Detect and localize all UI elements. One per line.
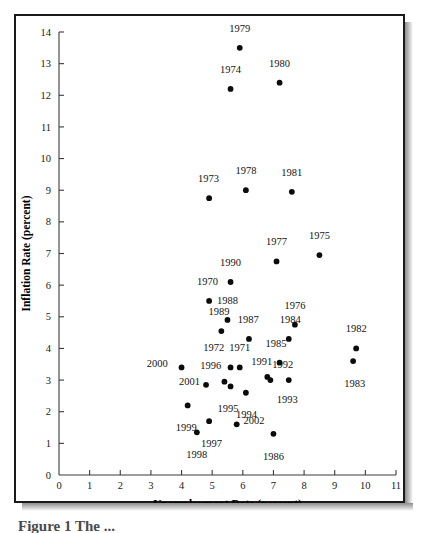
- data-point-1994[interactable]: [243, 390, 249, 396]
- data-point-1972[interactable]: [228, 365, 234, 371]
- data-point-1971[interactable]: [237, 365, 243, 371]
- point-label-1984: 1984: [280, 314, 302, 325]
- plot-svg: 0123456789101101234567891011121314Unempl…: [16, 16, 407, 505]
- point-label-1971: 1971: [229, 342, 250, 353]
- y-tick-label: 12: [41, 90, 52, 101]
- data-point-1973[interactable]: [206, 195, 212, 201]
- data-point-1974[interactable]: [228, 86, 234, 92]
- y-tick-label: 1: [46, 438, 51, 449]
- data-point-2002[interactable]: [234, 421, 240, 427]
- data-point-1999[interactable]: [185, 402, 191, 408]
- point-label-1970: 1970: [197, 276, 218, 287]
- point-label-1985: 1985: [265, 338, 286, 349]
- point-label-1997: 1997: [201, 438, 222, 449]
- y-tick-label: 7: [46, 248, 51, 259]
- data-point-1977[interactable]: [274, 259, 280, 265]
- data-point-2000[interactable]: [179, 365, 185, 371]
- data-point-2001[interactable]: [203, 382, 209, 388]
- data-point-1995[interactable]: [228, 384, 234, 390]
- data-point-1984[interactable]: [286, 336, 292, 342]
- x-tick-label: 7: [271, 480, 276, 491]
- point-label-1978: 1978: [235, 165, 256, 176]
- data-point-1979[interactable]: [237, 45, 243, 51]
- point-label-1980: 1980: [269, 58, 290, 69]
- y-tick-label: 10: [41, 153, 52, 164]
- y-tick-label: 9: [46, 185, 51, 196]
- y-tick-label: 2: [46, 406, 51, 417]
- x-tick-label: 10: [360, 480, 371, 491]
- point-label-1996: 1996: [200, 360, 221, 371]
- data-point-1980[interactable]: [277, 80, 283, 86]
- x-tick-label: 9: [332, 480, 337, 491]
- scatter-plot: 0123456789101101234567891011121314Unempl…: [16, 16, 407, 505]
- data-point-1981[interactable]: [289, 189, 295, 195]
- point-label-1991: 1991: [251, 356, 272, 367]
- figure-caption: Figure 1 The ...: [18, 519, 278, 533]
- y-tick-label: 3: [46, 375, 51, 386]
- x-tick-label: 5: [210, 480, 215, 491]
- point-label-1976: 1976: [284, 300, 305, 311]
- y-tick-label: 8: [46, 216, 51, 227]
- x-tick-label: 2: [118, 480, 123, 491]
- y-tick-label: 6: [46, 280, 51, 291]
- point-label-1992: 1992: [272, 359, 293, 370]
- point-label-1979: 1979: [229, 23, 250, 34]
- y-axis-title: Inflation Rate (percent): [20, 195, 33, 311]
- point-label-1975: 1975: [309, 230, 330, 241]
- point-label-2002: 2002: [243, 415, 264, 426]
- data-point-1993[interactable]: [267, 377, 273, 383]
- data-point-1997[interactable]: [206, 418, 212, 424]
- x-tick-label: 11: [391, 480, 401, 491]
- data-point-1978[interactable]: [243, 187, 249, 193]
- x-tick-label: 0: [56, 480, 61, 491]
- data-point-1983[interactable]: [350, 358, 356, 364]
- y-tick-label: 0: [46, 470, 51, 481]
- data-point-1970[interactable]: [206, 298, 212, 304]
- point-label-1987: 1987: [238, 314, 259, 325]
- x-tick-label: 6: [240, 480, 245, 491]
- x-tick-label: 1: [87, 480, 92, 491]
- point-label-1982: 1982: [346, 323, 367, 334]
- point-label-1972: 1972: [203, 342, 224, 353]
- x-tick-label: 8: [301, 480, 306, 491]
- y-tick-label: 14: [41, 27, 52, 38]
- y-tick-label: 4: [46, 343, 52, 354]
- point-label-1983: 1983: [344, 378, 365, 389]
- point-label-1977: 1977: [266, 236, 287, 247]
- data-point-1986[interactable]: [271, 431, 277, 437]
- point-label-1974: 1974: [220, 64, 242, 75]
- x-tick-label: 4: [179, 480, 185, 491]
- x-tick-label: 3: [148, 480, 153, 491]
- point-label-1998: 1998: [186, 449, 207, 460]
- y-tick-label: 13: [41, 58, 52, 69]
- point-label-1981: 1981: [281, 167, 302, 178]
- point-label-1999: 1999: [176, 422, 197, 433]
- data-point-1992[interactable]: [286, 377, 292, 383]
- point-label-2001: 2001: [179, 376, 200, 387]
- frame-shadow-right: [405, 22, 413, 511]
- point-label-1995: 1995: [218, 403, 239, 414]
- point-label-1990: 1990: [220, 257, 241, 268]
- data-point-1990[interactable]: [228, 279, 234, 285]
- data-point-1987[interactable]: [246, 336, 252, 342]
- data-point-1996[interactable]: [222, 379, 228, 385]
- data-point-1989[interactable]: [218, 328, 224, 334]
- frame-shadow-bottom: [22, 503, 413, 511]
- data-point-1988[interactable]: [225, 317, 231, 323]
- point-label-1988: 1988: [217, 295, 238, 306]
- data-point-1975[interactable]: [317, 252, 323, 258]
- y-tick-label: 11: [41, 122, 51, 133]
- point-label-2000: 2000: [147, 358, 168, 369]
- point-label-1989: 1989: [208, 306, 229, 317]
- point-label-1993: 1993: [277, 394, 298, 405]
- point-label-1973: 1973: [198, 173, 219, 184]
- data-point-1982[interactable]: [353, 346, 359, 352]
- point-label-1986: 1986: [263, 451, 284, 462]
- figure-frame: 0123456789101101234567891011121314Unempl…: [14, 14, 405, 503]
- y-tick-label: 5: [46, 311, 51, 322]
